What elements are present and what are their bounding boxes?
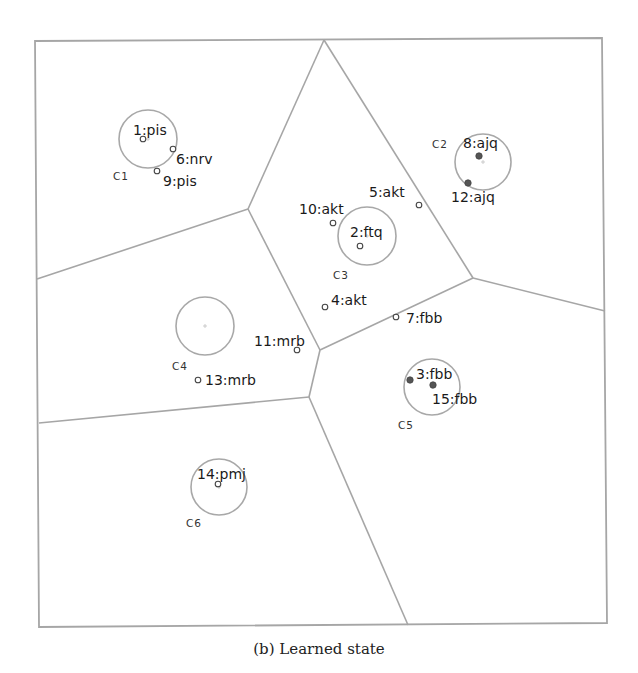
voronoi-edge (309, 350, 320, 397)
data-point-4: 4:akt (322, 292, 367, 310)
open-point-marker (416, 202, 422, 208)
data-point-12: 12:ajq (451, 180, 495, 205)
point-label: 12:ajq (451, 189, 495, 205)
filled-point-marker (476, 153, 482, 159)
open-point-marker (322, 304, 328, 310)
open-point-marker (170, 146, 176, 152)
data-point-10: 10:akt (299, 201, 344, 226)
voronoi-cluster-diagram: C1C2C3C4C5C6 1:pis2:ftq3:fbb4:akt5:akt6:… (0, 0, 638, 673)
data-points: 1:pis2:ftq3:fbb4:akt5:akt6:nrv7:fbb8:ajq… (133, 122, 498, 487)
frame-border (35, 38, 607, 627)
data-point-11: 11:mrb (254, 333, 305, 353)
data-point-13: 13:mrb (195, 372, 256, 388)
point-label: 11:mrb (254, 333, 305, 349)
point-label: 15:fbb (432, 391, 477, 407)
point-label: 9:pis (163, 173, 197, 189)
voronoi-edge (324, 40, 473, 278)
filled-point-marker (407, 377, 413, 383)
cluster-label: C4 (172, 360, 188, 372)
voronoi-edge (39, 397, 309, 423)
open-point-marker (330, 220, 336, 226)
data-point-9: 9:pis (154, 168, 197, 189)
cluster-c1: C1 (113, 110, 177, 182)
cluster-label: C3 (333, 269, 349, 281)
point-label: 5:akt (369, 184, 405, 200)
open-point-marker (393, 314, 399, 320)
data-point-2: 2:ftq (350, 224, 383, 249)
point-label: 1:pis (133, 122, 167, 138)
voronoi-edge (473, 278, 605, 311)
filled-point-marker (465, 180, 471, 186)
voronoi-edge (37, 209, 248, 279)
figure-caption: (b) Learned state (0, 640, 638, 658)
cluster-label: C1 (113, 170, 129, 182)
cluster-c3: C3 (333, 207, 396, 281)
open-point-marker (215, 481, 221, 487)
point-label: 2:ftq (350, 224, 383, 240)
data-point-14: 14:pmj (197, 466, 246, 487)
point-label: 3:fbb (416, 366, 452, 382)
cluster-label: C6 (186, 517, 202, 529)
point-label: 7:fbb (406, 310, 442, 326)
data-point-3: 3:fbb (407, 366, 453, 383)
point-label: 8:ajq (463, 135, 498, 151)
voronoi-edge (309, 397, 408, 625)
filled-point-marker (430, 382, 436, 388)
point-label: 13:mrb (205, 372, 256, 388)
cluster-c4: C4 (172, 297, 234, 372)
cluster-label: C5 (398, 419, 414, 431)
point-label: 4:akt (331, 292, 367, 308)
data-point-8: 8:ajq (463, 135, 498, 159)
data-point-6: 6:nrv (170, 146, 212, 167)
voronoi-edges (37, 40, 605, 625)
point-label: 10:akt (299, 201, 344, 217)
open-point-marker (357, 243, 363, 249)
cluster-label: C2 (432, 138, 448, 150)
data-point-15: 15:fbb (430, 382, 478, 407)
data-point-5: 5:akt (369, 184, 422, 208)
open-point-marker (195, 377, 201, 383)
voronoi-edge (248, 209, 320, 350)
open-point-marker (154, 168, 160, 174)
plot-frame (35, 38, 607, 627)
point-label: 6:nrv (176, 151, 213, 167)
point-label: 14:pmj (197, 466, 246, 482)
voronoi-edge (248, 40, 324, 209)
